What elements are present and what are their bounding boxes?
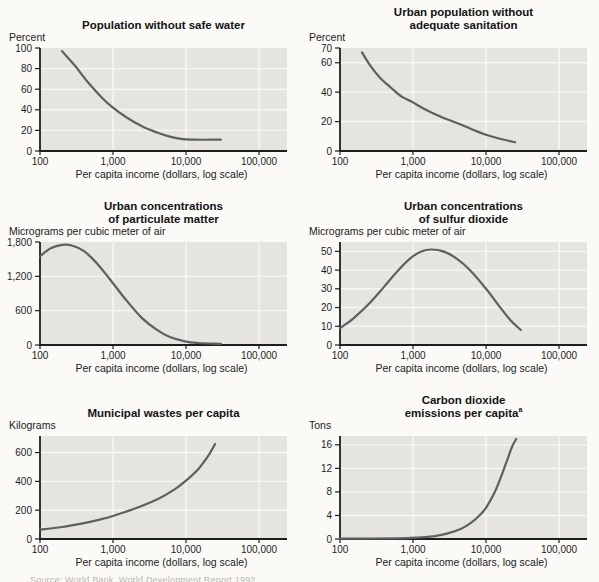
svg-text:10,000: 10,000	[471, 544, 502, 555]
x-axis-label: Per capita income (dollars, log scale)	[336, 556, 587, 568]
svg-text:10,000: 10,000	[171, 544, 202, 555]
svg-text:100: 100	[332, 350, 349, 361]
svg-text:100: 100	[32, 156, 49, 167]
svg-text:100,000: 100,000	[541, 350, 578, 361]
svg-text:0: 0	[326, 340, 332, 351]
line-chart-plot: 0204060701001,00010,000100,000	[300, 0, 599, 194]
svg-text:10,000: 10,000	[171, 156, 202, 167]
line-chart-plot: 0204060801001001,00010,000100,000	[0, 0, 299, 194]
svg-text:80: 80	[21, 63, 33, 74]
x-axis-label: Per capita income (dollars, log scale)	[36, 362, 287, 374]
line-chart-plot: 02004006001001,00010,000100,000	[0, 388, 299, 582]
svg-text:30: 30	[321, 283, 333, 294]
x-axis-label: Per capita income (dollars, log scale)	[36, 168, 287, 180]
svg-text:100,000: 100,000	[241, 544, 278, 555]
svg-text:10,000: 10,000	[471, 350, 502, 361]
chart-sanitation: Urban population without adequate sanita…	[300, 0, 599, 194]
svg-text:10,000: 10,000	[171, 350, 202, 361]
chart-sulfur-dioxide: Urban concentrations of sulfur dioxide M…	[300, 194, 599, 388]
svg-text:200: 200	[15, 505, 32, 516]
svg-text:100: 100	[32, 544, 49, 555]
svg-text:1,000: 1,000	[100, 544, 125, 555]
svg-text:0: 0	[326, 534, 332, 545]
chart-co2-emissions: Carbon dioxide emissions per capitaa Ton…	[300, 388, 599, 582]
svg-text:60: 60	[21, 84, 33, 95]
svg-text:1,000: 1,000	[100, 156, 125, 167]
svg-text:4: 4	[326, 510, 332, 521]
svg-text:1,200: 1,200	[7, 271, 32, 282]
svg-text:400: 400	[15, 476, 32, 487]
svg-text:20: 20	[321, 116, 333, 127]
svg-text:100: 100	[332, 156, 349, 167]
svg-text:100,000: 100,000	[241, 156, 278, 167]
svg-text:0: 0	[26, 534, 32, 545]
line-chart-plot: 04812161001,00010,000100,000	[300, 388, 599, 582]
svg-text:600: 600	[15, 447, 32, 458]
x-axis-label: Per capita income (dollars, log scale)	[336, 362, 587, 374]
svg-text:60: 60	[321, 57, 333, 68]
chart-municipal-wastes: Municipal wastes per capita Kilograms 02…	[0, 388, 300, 582]
svg-text:70: 70	[321, 43, 333, 54]
line-chart-plot: 010203040501001,00010,000100,000	[300, 194, 599, 388]
svg-text:20: 20	[21, 125, 33, 136]
svg-text:0: 0	[26, 340, 32, 351]
source-note: Source: World Bank, World Development Re…	[30, 575, 450, 582]
figure-grid: Population without safe water Percent 02…	[0, 0, 599, 582]
line-chart-plot: 06001,2001,8001001,00010,000100,000	[0, 194, 299, 388]
svg-text:100,000: 100,000	[541, 544, 578, 555]
svg-text:50: 50	[321, 246, 333, 257]
svg-text:16: 16	[321, 439, 333, 450]
svg-text:20: 20	[321, 302, 333, 313]
svg-text:10,000: 10,000	[471, 156, 502, 167]
svg-text:40: 40	[321, 87, 333, 98]
svg-text:0: 0	[326, 146, 332, 157]
svg-text:40: 40	[321, 265, 333, 276]
svg-text:0: 0	[26, 146, 32, 157]
svg-text:1,800: 1,800	[7, 237, 32, 248]
svg-text:600: 600	[15, 305, 32, 316]
chart-safe-water: Population without safe water Percent 02…	[0, 0, 300, 194]
svg-text:10: 10	[321, 321, 333, 332]
svg-text:100,000: 100,000	[541, 156, 578, 167]
svg-text:12: 12	[321, 463, 333, 474]
svg-text:100,000: 100,000	[241, 350, 278, 361]
x-axis-label: Per capita income (dollars, log scale)	[36, 556, 287, 568]
chart-particulate-matter: Urban concentrations of particulate matt…	[0, 194, 300, 388]
svg-text:1,000: 1,000	[400, 156, 425, 167]
svg-text:1,000: 1,000	[400, 544, 425, 555]
svg-text:100: 100	[15, 43, 32, 54]
svg-text:100: 100	[332, 544, 349, 555]
svg-text:8: 8	[326, 486, 332, 497]
svg-text:1,000: 1,000	[400, 350, 425, 361]
svg-text:100: 100	[32, 350, 49, 361]
svg-text:40: 40	[21, 104, 33, 115]
svg-text:1,000: 1,000	[100, 350, 125, 361]
x-axis-label: Per capita income (dollars, log scale)	[336, 168, 587, 180]
